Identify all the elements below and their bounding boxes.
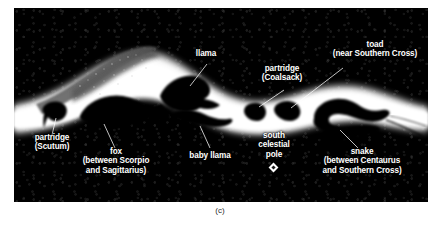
label-snake-line-1: (between Centaurus (302, 156, 422, 165)
label-snake-line-2: and Southern Cross) (302, 166, 422, 175)
label-toad-line-0: toad (327, 40, 423, 49)
label-south-celestial-pole-line-0: south (242, 131, 306, 140)
figure-caption: (c) (0, 206, 440, 215)
label-partridge-coalsack[interactable]: partridge (Coalsack) (246, 64, 318, 83)
leader-line-baby-llama (200, 126, 210, 148)
label-fox-line-2: and Sagittarius) (64, 166, 168, 175)
label-snake[interactable]: snake (between Centaurus and Southern Cr… (302, 147, 422, 175)
dark-cloud-constellations-figure: toad (near Southern Cross) llama partrid… (0, 0, 440, 229)
label-snake-line-0: snake (302, 147, 422, 156)
label-partridge-scutum-line-0: partridge (16, 133, 88, 142)
label-fox[interactable]: fox (between Scorpio and Sagittarius) (64, 147, 168, 175)
sky-photograph-panel: toad (near Southern Cross) llama partrid… (14, 8, 428, 202)
label-partridge-coalsack-line-1: (Coalsack) (246, 73, 318, 82)
label-llama[interactable]: llama (184, 49, 228, 58)
label-llama-line-0: llama (184, 49, 228, 58)
label-partridge-coalsack-line-0: partridge (246, 64, 318, 73)
label-baby-llama-line-0: baby llama (172, 151, 248, 160)
label-fox-line-1: (between Scorpio (64, 156, 168, 165)
label-baby-llama[interactable]: baby llama (172, 151, 248, 160)
label-south-celestial-pole[interactable]: south celestial pole (242, 131, 306, 159)
label-toad-line-1: (near Southern Cross) (327, 49, 423, 58)
label-south-celestial-pole-line-2: pole (242, 150, 306, 159)
label-fox-line-0: fox (64, 147, 168, 156)
label-toad[interactable]: toad (near Southern Cross) (327, 40, 423, 59)
label-south-celestial-pole-line-1: celestial (242, 140, 306, 149)
